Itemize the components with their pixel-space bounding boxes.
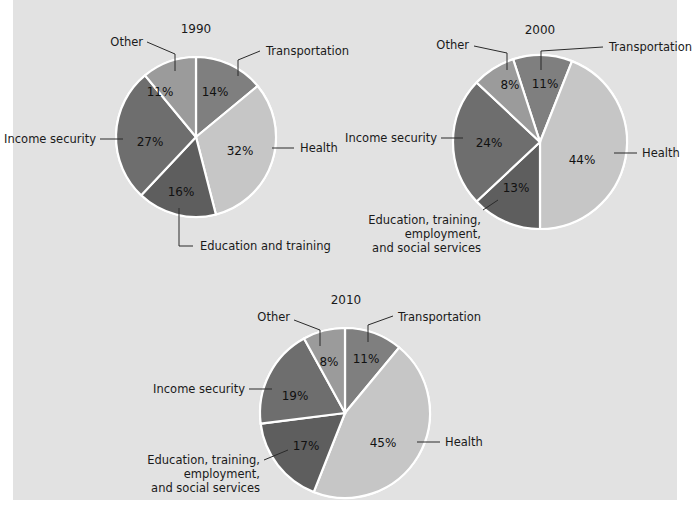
pct-income-1990: 27%: [137, 135, 164, 149]
label-education-2010-line1: Education, training,: [147, 453, 260, 467]
label-transportation-2000: Transportation: [608, 40, 692, 54]
pie-chart-2010: 2010 8% 11% 45% 17% 19% Other Transporta…: [147, 293, 483, 499]
label-transportation-2010: Transportation: [397, 310, 481, 324]
label-other-2000: Other: [436, 38, 469, 52]
pct-other-1990: 11%: [147, 85, 174, 99]
label-income-1990: Income security: [4, 132, 96, 146]
pie-chart-1990: 1990 11% 14% 32% 16% 27% Other Transport…: [4, 22, 349, 253]
pct-other-2010: 8%: [319, 355, 338, 369]
label-education-2000-line2: employment,: [405, 227, 481, 241]
label-income-2010: Income security: [153, 382, 245, 396]
label-education-1990: Education and training: [200, 239, 331, 253]
pct-health-2000: 44%: [569, 153, 596, 167]
label-education-2010-line2: employment,: [184, 467, 260, 481]
chart-title-2000: 2000: [525, 23, 556, 37]
chart-title-1990: 1990: [181, 22, 212, 36]
label-other-1990: Other: [110, 35, 143, 49]
pct-education-2010: 17%: [293, 439, 320, 453]
label-education-2010-line3: and social services: [151, 481, 260, 495]
pie-slices-2010: [260, 328, 430, 498]
label-transportation-1990: Transportation: [265, 44, 349, 58]
label-health-2010: Health: [445, 435, 483, 449]
pct-other-2000: 8%: [500, 78, 519, 92]
pct-education-2000: 13%: [503, 181, 530, 195]
pie-chart-2000: 2000 8% 11% 44% 13% 24% Other Transporta…: [345, 23, 692, 255]
label-income-2000: Income security: [345, 131, 437, 145]
pct-income-2000: 24%: [476, 136, 503, 150]
pct-transportation-2010: 11%: [353, 352, 380, 366]
label-education-2000-line1: Education, training,: [368, 213, 481, 227]
pct-education-1990: 16%: [168, 185, 195, 199]
label-other-2010: Other: [257, 310, 290, 324]
pct-transportation-1990: 14%: [202, 85, 229, 99]
pct-health-2010: 45%: [370, 436, 397, 450]
label-health-1990: Health: [300, 141, 338, 155]
pct-transportation-2000: 11%: [532, 77, 559, 91]
pct-health-1990: 32%: [227, 144, 254, 158]
pct-income-2010: 19%: [282, 389, 309, 403]
label-education-2000-line3: and social services: [372, 241, 481, 255]
chart-title-2010: 2010: [331, 293, 362, 307]
pie-charts-figure: 1990 11% 14% 32% 16% 27% Other Transport…: [0, 0, 694, 508]
label-health-2000: Health: [642, 146, 680, 160]
